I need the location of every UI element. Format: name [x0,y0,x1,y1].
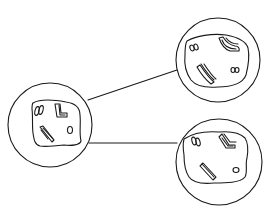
cell-membrane [176,18,260,102]
chromosome-long [197,64,216,84]
chromosome-bent [55,104,67,117]
chromosome-tiny [68,127,73,134]
chromosome-tiny [233,168,239,173]
parent-cell [8,83,92,167]
daughter-cell-top [176,18,260,102]
chromosome-long [200,163,216,180]
cell-division-diagram [0,0,271,214]
cell-membrane [8,83,92,167]
chromosome-small-pair [189,43,199,51]
chromosome-small-pair [34,105,44,116]
connector-top [88,70,177,100]
nucleus-outline [185,34,249,87]
chromosome-bent [219,134,236,148]
chromosome-long [40,126,54,142]
chromosome-small-pair [191,137,201,147]
chromosome-bent [219,37,239,51]
diagram-canvas [0,0,271,214]
chromosome-tiny-pair [231,68,239,73]
nucleus-outline [183,132,248,184]
daughter-cell-bottom [176,119,262,205]
